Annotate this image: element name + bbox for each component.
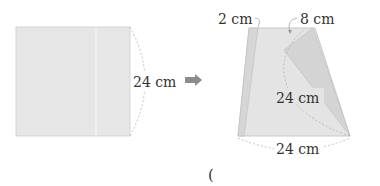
diagonal-length-label: 24 cm	[276, 90, 319, 106]
square-side-label: 24 cm	[133, 74, 176, 90]
strip-width-label: 2 cm	[218, 11, 252, 27]
paper-folding-diagram: 24 cm 2 cm 8 cm	[0, 0, 380, 186]
square-sheet: 24 cm	[16, 27, 181, 136]
right-arrow-icon	[185, 74, 202, 86]
answer-paren: (	[208, 166, 214, 184]
folded-sheet: 2 cm 8 cm 24 cm 24 cm	[218, 11, 350, 157]
strip-pointer	[255, 18, 259, 27]
fold-offset-label: 8 cm	[300, 11, 334, 27]
bottom-length-label: 24 cm	[276, 141, 319, 157]
